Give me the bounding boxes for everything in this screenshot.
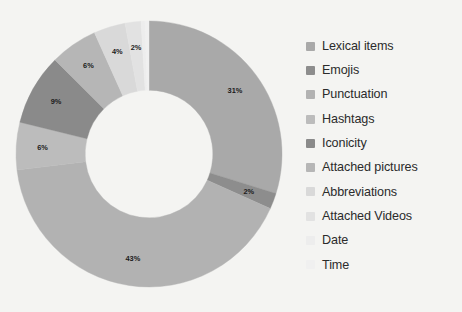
- legend-item-label: Time: [322, 259, 349, 272]
- donut-chart-area: 31%2%43%6%9%6%4%2%: [6, 4, 298, 308]
- chart-legend: Lexical itemsEmojisPunctuationHashtagsIc…: [306, 34, 458, 277]
- legend-swatch-icon: [306, 42, 315, 51]
- donut-slice[interactable]: [149, 21, 282, 194]
- donut-slices: [16, 21, 282, 287]
- legend-item-label: Punctuation: [322, 88, 387, 101]
- legend-item[interactable]: Attached pictures: [306, 155, 458, 179]
- legend-item[interactable]: Time: [306, 253, 458, 277]
- slice-value-label: 43%: [126, 254, 141, 263]
- legend-swatch-icon: [306, 66, 315, 75]
- chart-canvas: 31%2%43%6%9%6%4%2% Lexical itemsEmojisPu…: [0, 0, 462, 312]
- legend-item[interactable]: Iconicity: [306, 131, 458, 155]
- slice-value-label: 31%: [228, 86, 243, 95]
- legend-item[interactable]: Attached Videos: [306, 204, 458, 228]
- legend-item-label: Hashtags: [322, 113, 374, 126]
- legend-item[interactable]: Abbreviations: [306, 180, 458, 204]
- donut-svg: 31%2%43%6%9%6%4%2%: [14, 14, 284, 294]
- legend-swatch-icon: [306, 212, 315, 221]
- slice-value-label: 2%: [131, 43, 142, 52]
- legend-item[interactable]: Punctuation: [306, 83, 458, 107]
- slice-value-label: 9%: [51, 97, 62, 106]
- legend-swatch-icon: [306, 139, 315, 148]
- legend-swatch-icon: [306, 187, 315, 196]
- slice-value-label: 4%: [112, 47, 123, 56]
- legend-swatch-icon: [306, 236, 315, 245]
- slice-value-label: 2%: [243, 187, 254, 196]
- legend-item[interactable]: Date: [306, 228, 458, 252]
- legend-swatch-icon: [306, 90, 315, 99]
- legend-swatch-icon: [306, 163, 315, 172]
- donut-chart: 31%2%43%6%9%6%4%2%: [14, 14, 284, 294]
- legend-item[interactable]: Lexical items: [306, 34, 458, 58]
- legend-item-label: Iconicity: [322, 137, 367, 150]
- slice-value-label: 6%: [83, 61, 94, 70]
- legend-item-label: Attached Videos: [322, 210, 412, 223]
- legend-swatch-icon: [306, 115, 315, 124]
- legend-item[interactable]: Emojis: [306, 58, 458, 82]
- slice-value-label: 6%: [37, 143, 48, 152]
- legend-item-label: Attached pictures: [322, 161, 418, 174]
- legend-item-label: Abbreviations: [322, 186, 397, 199]
- legend-swatch-icon: [306, 260, 315, 269]
- legend-item-label: Lexical items: [322, 40, 394, 53]
- legend-item-label: Emojis: [322, 64, 359, 77]
- legend-item[interactable]: Hashtags: [306, 107, 458, 131]
- legend-item-label: Date: [322, 234, 348, 247]
